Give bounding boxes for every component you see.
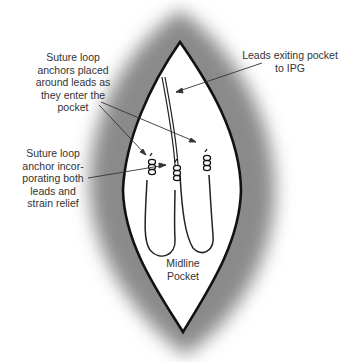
label-suture-loop-anchor-both: Suture loop anchor incor- porating both … [18, 147, 88, 210]
label-suture-loop-anchors: Suture loop anchors placed around leads … [28, 51, 118, 114]
label-leads-exiting: Leads exiting pocket to IPG [238, 49, 342, 74]
label-midline-pocket: Midline Pocket [163, 257, 203, 282]
